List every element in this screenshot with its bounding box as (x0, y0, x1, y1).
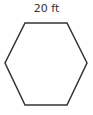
hexagon-shape (5, 23, 87, 105)
hexagon-figure (0, 0, 93, 115)
